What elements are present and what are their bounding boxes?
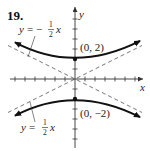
vertex-bottom-label: (0, −2): [80, 107, 110, 120]
svg-text:1: 1: [49, 20, 53, 29]
asym-pos-eq: =: [29, 121, 35, 133]
asymptote-label-pos: y = 1 2 x: [20, 102, 55, 137]
svg-text:2: 2: [49, 30, 53, 39]
vertex-top-point: [73, 57, 77, 61]
svg-text:x: x: [55, 23, 61, 35]
svg-text:y: y: [18, 23, 24, 35]
y-axis-label: y: [78, 8, 84, 20]
x-axis-label: x: [139, 81, 145, 93]
asym-neg-eq: = −: [27, 23, 42, 35]
asym-neg-leader: [28, 36, 35, 57]
svg-text:1: 1: [43, 118, 47, 127]
svg-text:2: 2: [43, 128, 47, 137]
x-axis: x: [10, 77, 145, 94]
hyperbola-plot: x y: [0, 0, 150, 151]
hyperbola-figure: 19.: [0, 0, 150, 151]
svg-text:x: x: [49, 121, 55, 133]
vertex-top-label: (0, 2): [80, 41, 104, 54]
svg-text:y: y: [20, 121, 26, 133]
vertex-bottom-point: [73, 97, 77, 101]
asym-pos-leader: [30, 102, 35, 122]
